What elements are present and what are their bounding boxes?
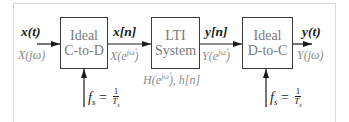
block-label-line1: LTI: [165, 28, 185, 43]
output-signal-freq-label: Y(jω): [297, 48, 323, 63]
fraction: 1Ts: [112, 87, 119, 110]
input-signal-freq-label: X(jω): [18, 48, 45, 63]
block-label-line2: D-to-C: [248, 43, 288, 58]
input-signal-time-label: x(t): [21, 24, 41, 40]
sampling-frequency-label-d-to-c: fs = 1Ts: [270, 87, 302, 110]
block-label-line2: System: [155, 43, 196, 58]
d-to-c-converter-block: Ideal D-to-C: [242, 17, 293, 69]
lti-output-time-label: y[n]: [205, 24, 228, 40]
block-label-line1: Ideal: [254, 28, 282, 43]
block-label-line1: Ideal: [70, 28, 98, 43]
output-signal-time-label: y(t): [302, 24, 321, 40]
c-to-d-converter-block: Ideal C-to-D: [60, 17, 108, 69]
sampled-signal-time-label: x[n]: [113, 24, 136, 40]
lti-output-freq-label: Y(ejω̂): [202, 48, 230, 64]
system-response-label: H(ejω̂), h[n]: [143, 72, 200, 88]
sampling-frequency-label-c-to-d: fs = 1Ts: [88, 87, 120, 110]
sampled-signal-freq-label: X(ejω̂): [110, 48, 139, 64]
lti-system-block: LTI System: [151, 17, 200, 69]
block-label-line2: C-to-D: [64, 43, 104, 58]
fraction: 1Ts: [294, 87, 301, 110]
